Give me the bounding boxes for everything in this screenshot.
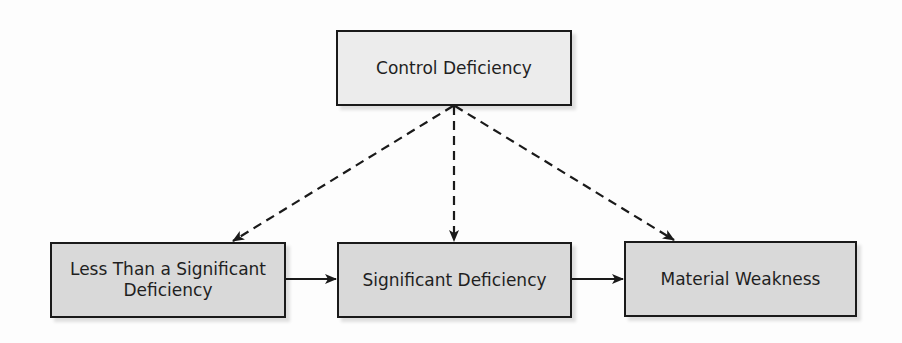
material-weakness-label: Material Weakness [661,269,821,290]
less-than-significant-deficiency-label: Less Than a Significant Deficiency [70,259,266,301]
label-line-1: Less Than a Significant [70,259,266,279]
less-than-significant-deficiency-box: Less Than a Significant Deficiency [50,242,286,318]
dashed-arrow-to-less-than-significant [233,106,453,241]
material-weakness-box: Material Weakness [624,241,857,317]
significant-deficiency-box: Significant Deficiency [337,242,572,318]
control-deficiency-label: Control Deficiency [376,58,532,79]
significant-deficiency-label: Significant Deficiency [362,270,546,291]
control-deficiency-box: Control Deficiency [336,30,572,106]
label-line-2: Deficiency [124,280,213,300]
dashed-arrow-to-material-weakness [455,106,674,240]
